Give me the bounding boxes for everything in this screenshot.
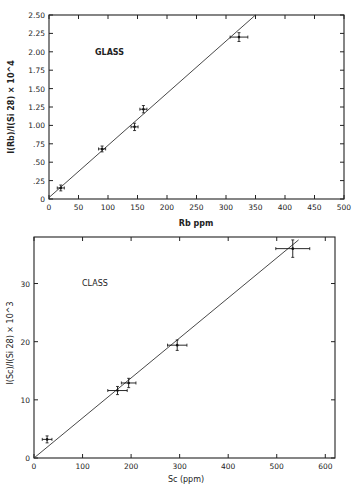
y-tick-label: 2.50 [28,11,45,20]
y-tick-label: .25 [33,177,45,186]
x-tick-label: 300 [219,203,234,212]
plot-frame [34,237,335,458]
x-axis-title: Sc (ppm) [168,475,204,484]
chart-annotation: GLASS [95,48,124,57]
data-point [121,378,136,387]
fit-line [49,15,256,198]
x-tick-label: 500 [337,203,352,212]
x-tick-label: 450 [307,203,322,212]
y-tick-label: 2.00 [28,48,45,57]
data-point [230,33,248,42]
x-tick-label: 250 [189,203,204,212]
x-tick-label: 100 [75,462,90,471]
y-axis-title: I(Rb)/I(Si 28) × 10^4 [7,60,16,154]
x-tick-label: 400 [278,203,293,212]
x-tick-label: 350 [248,203,263,212]
y-axis-title: I(Sc)/I(Si 28) × 10^3 [6,301,15,384]
y-tick-label: 1.50 [28,85,45,94]
y-tick-label: 30 [20,280,30,289]
plot-frame [49,15,344,199]
data-point [108,386,127,394]
x-tick-label: 200 [160,203,175,212]
figure: 0501001502002503003504004505000.25.50.75… [0,0,353,489]
y-tick-label: 2.25 [28,29,45,38]
y-tick-label: 1.25 [28,103,45,112]
x-tick-label: 100 [101,203,116,212]
x-axis-title: Rb ppm [179,219,213,228]
data-point [168,340,187,350]
y-tick-label: 10 [20,396,30,405]
x-tick-label: 300 [172,462,187,471]
y-tick-label: .50 [33,158,45,167]
data-point [42,436,52,443]
y-tick-label: .75 [33,140,45,149]
y-tick-label: 0 [25,454,30,463]
y-tick-label: 20 [20,338,30,347]
data-point [57,185,64,191]
x-tick-label: 200 [124,462,139,471]
x-tick-label: 0 [47,203,52,212]
x-tick-label: 0 [32,462,37,471]
x-tick-label: 400 [221,462,236,471]
x-tick-label: 150 [130,203,145,212]
chart-annotation: CLASS [82,279,108,288]
y-tick-label: 1.00 [28,121,45,130]
x-tick-label: 600 [318,462,333,471]
fit-line [34,240,299,458]
x-tick-label: 500 [270,462,285,471]
rb-chart: 0501001502002503003504004505000.25.50.75… [7,11,351,228]
sc-chart: 01002003004005006000102030CLASSSc (ppm)I… [6,237,335,484]
y-tick-label: 1.75 [28,66,45,75]
data-point [99,146,106,152]
y-tick-label: 0 [40,195,45,204]
x-tick-label: 50 [74,203,84,212]
